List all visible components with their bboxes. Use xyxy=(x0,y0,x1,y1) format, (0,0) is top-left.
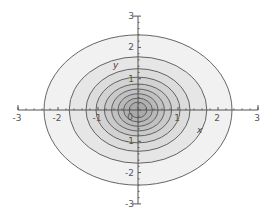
x-axis-label: x xyxy=(196,125,203,135)
x-tick-label: 1 xyxy=(174,113,180,123)
y-tick-label: -1 xyxy=(125,136,134,146)
x-tick-label: 2 xyxy=(214,113,220,123)
y-axis-label: y xyxy=(112,60,119,70)
y-tick-label: 3 xyxy=(128,11,134,21)
y-tick-label: 2 xyxy=(128,42,134,52)
x-tick-label: -1 xyxy=(93,113,102,123)
y-tick-label: -2 xyxy=(125,168,134,178)
x-tick-label: 0 xyxy=(127,112,133,122)
contour-plot: -3-2-10123321-1-2-3 x y xyxy=(0,0,272,222)
y-tick-label: 1 xyxy=(128,74,134,84)
axes xyxy=(18,16,258,204)
y-tick-label: -3 xyxy=(125,199,134,209)
x-tick-label: -3 xyxy=(13,113,22,123)
x-tick-label: 3 xyxy=(254,113,260,123)
x-tick-label: -2 xyxy=(53,113,62,123)
